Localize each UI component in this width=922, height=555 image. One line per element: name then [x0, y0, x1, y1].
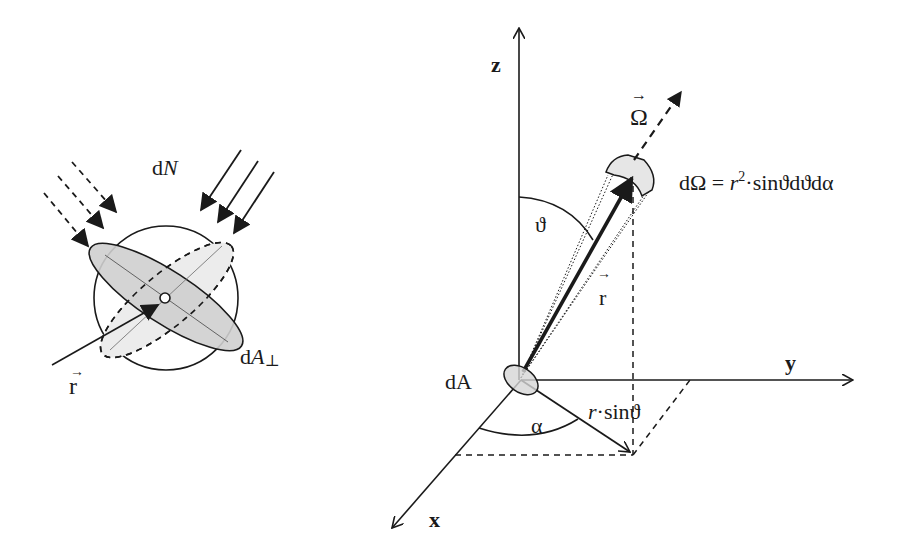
omega-vector-arrow-glyph: →	[631, 86, 647, 103]
dA-perp-label: dA⊥	[240, 344, 280, 369]
x-axis	[392, 380, 521, 528]
r-vector-thick	[523, 178, 632, 372]
theta-arc	[519, 197, 593, 240]
r-vector-arrow-glyph-right: →	[597, 266, 611, 281]
center-point	[160, 293, 170, 303]
z-axis-label: z	[491, 52, 501, 77]
d-omega-formula: dΩ = r2·sinϑdϑdα	[679, 169, 834, 195]
solid-angle-patch	[606, 155, 654, 196]
y-axis-label: y	[785, 350, 796, 375]
alpha-label: α	[531, 413, 543, 438]
r-vector-label-right: r	[599, 285, 607, 310]
alpha-arc	[479, 419, 578, 435]
omega-vector-label: Ω	[630, 104, 648, 130]
right-solid-angle-diagram: z y x → Ω dΩ = r2·sinϑdϑdα ϑ → r dA α r·…	[392, 28, 853, 532]
r-sin-theta-label: r·sinϑ	[588, 399, 641, 424]
left-flux-diagram: dN dA⊥ → r	[44, 150, 280, 399]
dA-label: dA	[445, 369, 472, 394]
solid-angle-cone	[521, 172, 650, 378]
dN-label: dN	[152, 155, 179, 180]
diagram-canvas: dN dA⊥ → r	[0, 0, 922, 555]
solid-rays	[201, 150, 274, 233]
dA-surface-element	[499, 359, 544, 400]
x-axis-label: x	[429, 507, 440, 532]
theta-label: ϑ	[535, 212, 546, 237]
dashed-rays	[44, 162, 116, 246]
r-vector-label: r	[69, 373, 77, 399]
